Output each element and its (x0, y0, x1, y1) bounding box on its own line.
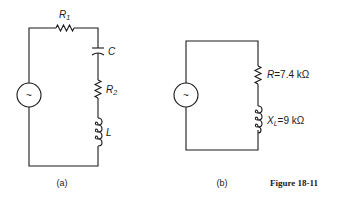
wire-a-top-left (29, 28, 56, 83)
resistor-r2 (95, 80, 101, 98)
wire-b-bottom (186, 107, 258, 150)
label-l: L (106, 127, 112, 138)
ac-symbol-b: ~ (183, 90, 189, 101)
wire-b-top (186, 41, 258, 83)
inductor-xl (255, 106, 262, 133)
inductor-l (95, 118, 102, 146)
caption-a: (a) (57, 178, 68, 188)
figure-title: Figure 18-11 (270, 178, 319, 188)
label-r-value: R=7.4 kΩ (267, 69, 310, 80)
ac-symbol-a: ~ (26, 90, 32, 101)
circuit-a: ~ R1 C R2 L (a) (17, 9, 117, 188)
circuit-b: ~ R=7.4 kΩ XL=9 kΩ (b) (174, 41, 310, 188)
label-xl-value: XL=9 kΩ (266, 115, 305, 127)
wire-a-bottom (29, 107, 98, 166)
resistor-r1 (56, 25, 74, 31)
resistor-r (255, 66, 261, 84)
label-r1: R1 (59, 9, 70, 21)
label-c: C (108, 46, 116, 57)
circuit-figure: ~ R1 C R2 L (a) ~ R=7.4 kΩ XL=9 kΩ (b) F… (0, 0, 337, 203)
label-r2: R2 (106, 84, 117, 96)
wire-a-top-right (74, 28, 98, 48)
caption-b: (b) (217, 178, 228, 188)
